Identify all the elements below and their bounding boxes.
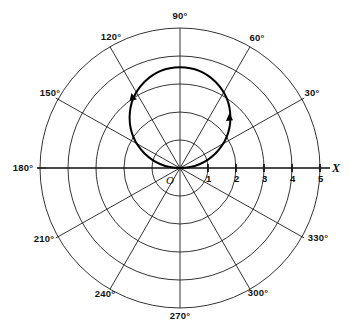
curve-direction-arrow-right [226, 113, 233, 121]
angle-label-180: 180° [13, 162, 33, 173]
radial-labels-group: 1 2 3 4 5 [206, 173, 324, 184]
angle-label-330: 330° [308, 232, 328, 243]
radial-label-5: 5 [318, 173, 324, 184]
polar-chart-canvas: 30° 60° 90° 120° 150° 180° 210° 240° 270… [0, 0, 349, 334]
angle-label-30: 30° [305, 87, 320, 98]
radial-label-3: 3 [262, 173, 267, 184]
origin-label: O [166, 174, 174, 186]
angle-label-240: 240° [95, 288, 115, 299]
polar-plot-figure: 30° 60° 90° 120° 150° 180° 210° 240° 270… [0, 0, 349, 334]
angle-label-150: 150° [40, 87, 60, 98]
radial-label-1: 1 [206, 173, 212, 184]
angle-label-60: 60° [250, 32, 265, 43]
angle-label-210: 210° [34, 233, 54, 244]
radial-label-2: 2 [234, 173, 239, 184]
angle-label-270: 270° [170, 310, 190, 321]
x-axis-label: X [331, 161, 341, 175]
angle-label-120: 120° [101, 31, 121, 42]
angle-label-300: 300° [248, 287, 268, 298]
plotted-curve-group [130, 67, 233, 168]
radial-label-4: 4 [290, 173, 296, 184]
angle-label-90: 90° [173, 10, 188, 21]
